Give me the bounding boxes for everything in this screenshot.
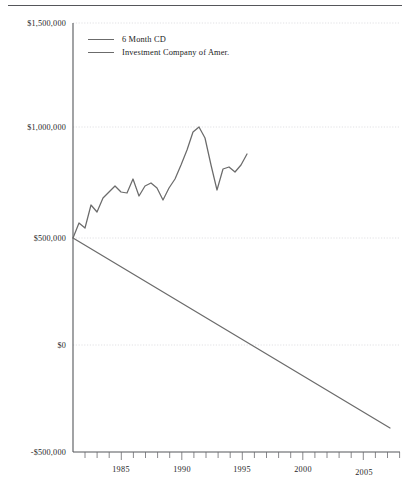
gridlines [73,23,400,345]
legend-item-6-month-cd: 6 Month CD [88,33,229,46]
y-tick-label-1500000: $1,500,000 [4,19,66,28]
y-tick-label-0: $0 [4,341,66,350]
legend-label-investment-company: Investment Company of Amer. [122,48,229,57]
x-tick-label-1990: 1990 [166,465,198,474]
y-tick-label-minus500000: -$500,000 [4,448,66,457]
legend-line-swatch-icon [88,52,114,53]
x-tick-label-2005: 2005 [348,468,380,477]
chart-plot-area [0,0,410,495]
y-tick-label-1000000: $1,000,000 [4,123,66,132]
legend-label-6-month-cd: 6 Month CD [122,35,166,44]
x-axis-minor-ticks [85,452,400,460]
chart-figure: $1,500,000 $1,000,000 $500,000 $0 -$500,… [0,0,410,495]
chart-legend: 6 Month CD Investment Company of Amer. [88,33,229,59]
x-tick-label-2000: 2000 [287,465,319,474]
legend-line-swatch-icon [88,39,114,40]
y-tick-label-500000: $500,000 [4,234,66,243]
x-tick-label-1985: 1985 [105,465,137,474]
series-line-6-month-cd [73,238,390,428]
legend-item-investment-company: Investment Company of Amer. [88,46,229,59]
series-line-investment-company [73,127,247,238]
x-tick-label-1995: 1995 [226,465,258,474]
